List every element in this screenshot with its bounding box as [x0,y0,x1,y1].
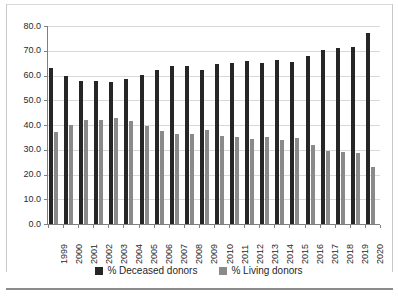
x-tick-mark [289,225,290,228]
chart-legend: % Deceased donors% Living donors [0,266,398,276]
bar-deceased-donors [366,33,370,224]
bar-group [123,26,138,224]
bar-group [289,26,304,224]
x-tick-label: 2004 [135,244,144,264]
x-tick-label: 2009 [210,244,219,264]
y-tick-mark [44,150,47,151]
x-tick-label: 2006 [165,244,174,264]
x-tick-label: 2018 [346,244,355,264]
x-tick-label: 2015 [301,244,310,264]
bar-deceased-donors [306,56,310,224]
x-tick-mark [274,225,275,228]
x-tick-mark [365,225,366,228]
bar-deceased-donors [64,76,68,224]
x-tick-label: 2012 [256,244,265,264]
bar-living-donors [371,167,375,224]
legend-item[interactable]: % Living donors [219,266,302,276]
figure-bottom-rule [6,288,393,290]
legend-swatch-icon [219,267,227,275]
x-tick-mark [63,225,64,228]
y-tick-label: 20.0 [23,170,41,179]
bar-living-donors [114,118,118,224]
bar-living-donors [220,136,224,224]
x-tick-mark [229,225,230,228]
bars-layer [48,26,380,224]
bar-deceased-donors [79,81,83,224]
x-tick-mark [154,225,155,228]
x-tick-mark [123,225,124,228]
bar-living-donors [311,145,315,224]
x-tick-mark [350,225,351,228]
x-tick-label: 2010 [226,244,235,264]
bar-group [93,26,108,224]
bar-living-donors [99,120,103,224]
bar-living-donors [129,121,133,224]
bar-living-donors [250,139,254,224]
y-tick-mark [44,125,47,126]
bar-group [184,26,199,224]
legend-item[interactable]: % Deceased donors [95,266,197,276]
bar-group [154,26,169,224]
bar-living-donors [235,137,239,224]
y-tick-mark [44,26,47,27]
bar-deceased-donors [140,75,144,224]
bar-group [63,26,78,224]
x-tick-label: 2000 [75,244,84,264]
x-tick-label: 2002 [105,244,114,264]
x-tick-mark [108,225,109,228]
bar-deceased-donors [245,61,249,224]
y-tick-label: 30.0 [23,145,41,154]
bar-group [350,26,365,224]
x-tick-mark [78,225,79,228]
figure-top-border [6,4,393,5]
bar-deceased-donors [215,64,219,224]
bar-group [108,26,123,224]
bar-group [78,26,93,224]
bar-deceased-donors [336,48,340,224]
bar-deceased-donors [321,50,325,224]
x-tick-label: 2016 [316,244,325,264]
bar-deceased-donors [109,82,113,224]
x-tick-label: 2003 [120,244,129,264]
x-tick-mark [305,225,306,228]
x-tick-mark [380,225,381,228]
bar-living-donors [280,140,284,224]
x-tick-label: 2005 [150,244,159,264]
bar-deceased-donors [290,62,294,224]
x-tick-label: 2001 [90,244,99,264]
x-tick-label: 2013 [271,244,280,264]
bar-living-donors [205,130,209,224]
bar-living-donors [175,134,179,224]
y-axis: 0.010.020.030.040.050.060.070.080.0 [0,0,44,297]
x-tick-label: 2019 [361,244,370,264]
y-tick-mark [44,100,47,101]
bar-living-donors [341,152,345,224]
x-tick-label: 1999 [60,244,69,264]
y-tick-label: 0.0 [28,220,41,229]
bar-group [214,26,229,224]
bar-group [48,26,63,224]
bar-living-donors [265,137,269,224]
legend-label: % Deceased donors [107,266,197,276]
x-tick-label: 2007 [180,244,189,264]
x-tick-mark [169,225,170,228]
bar-living-donors [326,151,330,224]
y-tick-label: 70.0 [23,46,41,55]
bar-group [259,26,274,224]
bar-living-donors [54,132,58,224]
bar-group [365,26,380,224]
y-tick-label: 10.0 [23,195,41,204]
y-tick-mark [44,224,47,225]
y-tick-label: 40.0 [23,121,41,130]
bar-group [335,26,350,224]
bar-deceased-donors [200,70,204,224]
bar-living-donors [356,153,360,224]
bar-group [274,26,289,224]
bar-living-donors [190,134,194,224]
y-tick-mark [44,51,47,52]
bar-deceased-donors [124,79,128,224]
bar-living-donors [84,120,88,224]
legend-label: % Living donors [231,266,302,276]
y-tick-mark [44,76,47,77]
x-tick-mark [48,225,49,228]
